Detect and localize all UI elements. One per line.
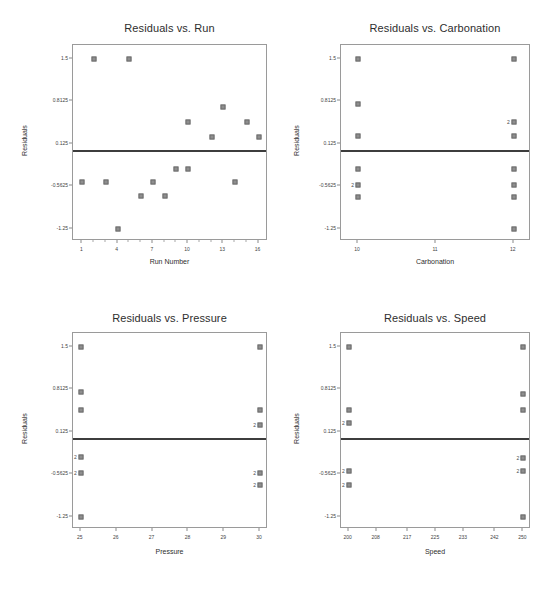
- data-point-marker: [511, 195, 516, 200]
- zero-reference-line: [73, 150, 266, 152]
- data-point-marker: [258, 471, 263, 476]
- y-axis-tick-label: 0.125: [323, 428, 340, 434]
- data-point-marker: [511, 56, 516, 61]
- point-count-label: 2: [517, 468, 521, 474]
- x-axis-tick-mark: [375, 528, 376, 531]
- x-axis-tick-mark: [187, 240, 188, 243]
- data-point-marker: [511, 226, 516, 231]
- x-axis-minor-tick-mark: [140, 240, 141, 242]
- chart-panel-1: Residuals vs. Run1.50.81250.125-0.5625-1…: [0, 0, 557, 597]
- chart-panel-3: Residuals vs. Pressure222221.50.81250.12…: [0, 0, 557, 597]
- data-point-marker: [150, 180, 155, 185]
- y-axis-tick-label: -0.5625: [319, 470, 340, 476]
- data-point-marker: [521, 514, 526, 519]
- data-point-marker: [233, 180, 238, 185]
- x-axis-tick-mark: [522, 528, 523, 531]
- x-axis-tick-mark: [347, 528, 348, 531]
- data-point-marker: [221, 105, 226, 110]
- chart-title: Residuals vs. Speed: [280, 312, 557, 324]
- data-point-marker: [256, 135, 261, 140]
- x-axis-tick-mark: [151, 528, 152, 531]
- data-point-marker: [78, 455, 83, 460]
- data-point-marker: [162, 193, 167, 198]
- x-axis-tick-mark: [407, 528, 408, 531]
- x-axis-tick-label: 208: [371, 534, 379, 540]
- data-point-marker: [186, 166, 191, 171]
- data-point-marker: [346, 408, 351, 413]
- y-axis-tick-mark: [337, 227, 340, 228]
- point-count-label: 2: [74, 454, 78, 460]
- data-point-marker: [511, 183, 516, 188]
- x-axis-tick-mark: [79, 528, 80, 531]
- data-point-marker: [356, 167, 361, 172]
- chart-panel-4: Residuals vs. Speed222221.50.81250.125-0…: [0, 0, 557, 597]
- x-axis-tick-label: 29: [220, 534, 226, 540]
- y-axis-tick-label: 0.125: [55, 428, 72, 434]
- y-axis-tick-label: 0.125: [323, 140, 340, 146]
- y-axis-tick-label: 0.8125: [321, 97, 340, 103]
- point-count-label: 2: [253, 422, 257, 428]
- x-axis-tick-label: 10: [354, 246, 360, 252]
- y-axis-tick-label: -0.5625: [51, 470, 72, 476]
- data-point-marker: [174, 166, 179, 171]
- x-axis-tick-label: 4: [115, 246, 118, 252]
- x-axis-minor-tick-mark: [175, 240, 176, 242]
- x-axis-tick-label: 225: [431, 534, 439, 540]
- y-axis-label: Residuals: [21, 121, 28, 161]
- data-point-marker: [521, 408, 526, 413]
- x-axis-label: Pressure: [72, 548, 267, 555]
- data-point-marker: [244, 120, 249, 125]
- data-point-marker: [127, 56, 132, 61]
- x-axis-label: Speed: [340, 548, 530, 555]
- data-point-marker: [258, 408, 263, 413]
- y-axis-label: Residuals: [21, 409, 28, 449]
- data-point-marker: [78, 390, 83, 395]
- chart-title: Residuals vs. Run: [12, 22, 327, 34]
- x-axis-tick-label: 26: [113, 534, 119, 540]
- data-point-marker: [521, 455, 526, 460]
- y-axis-tick-label: 1.5: [329, 55, 340, 61]
- data-point-marker: [258, 483, 263, 488]
- x-axis-minor-tick-mark: [198, 240, 199, 242]
- zero-reference-line: [341, 438, 529, 440]
- x-axis-tick-mark: [81, 240, 82, 243]
- x-axis-minor-tick-mark: [234, 240, 235, 242]
- x-axis-tick-mark: [357, 240, 358, 243]
- point-count-label: 2: [253, 470, 257, 476]
- x-axis-tick-label: 25: [77, 534, 83, 540]
- y-axis-tick-label: 0.8125: [53, 97, 72, 103]
- data-point-marker: [78, 344, 83, 349]
- zero-reference-line: [341, 150, 529, 152]
- x-axis-minor-tick-mark: [163, 240, 164, 242]
- data-point-marker: [356, 195, 361, 200]
- x-axis-label: Carbonation: [340, 258, 530, 265]
- plot-area: 22222: [72, 332, 267, 528]
- data-point-marker: [258, 344, 263, 349]
- x-axis-label: Run Number: [72, 258, 267, 265]
- x-axis-tick-mark: [257, 240, 258, 243]
- y-axis-tick-mark: [69, 57, 72, 58]
- residual-plots-figure: Residuals vs. Run1.50.81250.125-0.5625-1…: [0, 0, 557, 597]
- zero-reference-line: [73, 438, 266, 440]
- plot-area: 22222: [340, 332, 530, 528]
- y-axis-tick-label: -1.25: [325, 225, 340, 231]
- y-axis-tick-label: -0.5625: [51, 182, 72, 188]
- x-axis-tick-label: 30: [256, 534, 262, 540]
- data-point-marker: [78, 408, 83, 413]
- data-point-marker: [521, 469, 526, 474]
- x-axis-tick-label: 11: [432, 246, 437, 252]
- x-axis-tick-label: 233: [459, 534, 467, 540]
- y-axis-tick-label: 1.5: [329, 343, 340, 349]
- y-axis-tick-label: 1.5: [61, 55, 72, 61]
- chart-title: Residuals vs. Pressure: [12, 312, 327, 324]
- y-axis-tick-mark: [337, 57, 340, 58]
- x-axis-tick-mark: [187, 528, 188, 531]
- chart-title: Residuals vs. Carbonation: [280, 22, 557, 34]
- x-axis-tick-label: 28: [185, 534, 191, 540]
- x-axis-tick-mark: [151, 240, 152, 243]
- x-axis-minor-tick-mark: [93, 240, 94, 242]
- y-axis-tick-mark: [69, 515, 72, 516]
- x-axis-tick-label: 7: [150, 246, 153, 252]
- x-axis-tick-mark: [494, 528, 495, 531]
- y-axis-tick-mark: [69, 388, 72, 389]
